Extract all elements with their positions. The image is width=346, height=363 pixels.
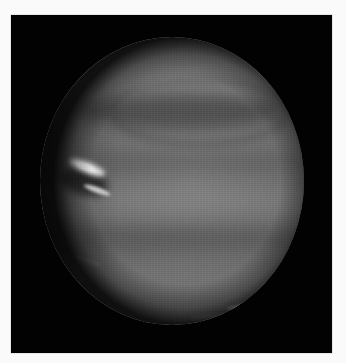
image-frame: Grayscale photograph of a banded gas gia… (11, 15, 332, 353)
planet-disk (40, 37, 304, 325)
limb-darkening (40, 37, 304, 325)
